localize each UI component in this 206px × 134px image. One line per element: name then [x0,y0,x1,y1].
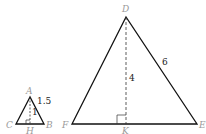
label-e: E [198,120,206,130]
altitude-ah-length: 1 [32,107,38,117]
label-b: B [45,120,53,130]
triangle-def [72,17,197,124]
side-de-length: 6 [162,57,168,67]
large-triangle: D F E K 6 4 [61,4,206,134]
side-ab-length: 1.5 [37,96,52,106]
altitude-dk-length: 4 [129,73,135,83]
label-a: A [25,86,33,96]
similar-triangles-diagram: A C B H 1.5 1 D F E K 6 4 [0,0,206,134]
right-angle-mark-k [117,115,126,124]
label-d: D [121,4,129,14]
small-triangle: A C B H 1.5 1 [6,86,53,134]
label-f: F [61,120,69,130]
label-k: K [121,126,130,134]
label-h: H [25,126,34,134]
label-c: C [6,120,13,130]
